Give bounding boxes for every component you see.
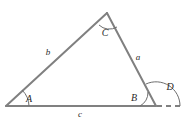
angle-label-c: C <box>102 28 109 38</box>
angle-arc-B <box>140 92 148 106</box>
side-b-line <box>6 13 107 106</box>
side-label-b: b <box>46 48 51 57</box>
side-label-a: a <box>136 53 141 62</box>
geometry-figure: b a c A C B D <box>0 0 186 122</box>
angle-label-d: D <box>166 82 173 92</box>
side-label-c: c <box>78 110 82 119</box>
angle-label-a: A <box>26 94 32 104</box>
angle-arc-D <box>146 82 180 106</box>
angle-label-b: B <box>131 93 137 103</box>
